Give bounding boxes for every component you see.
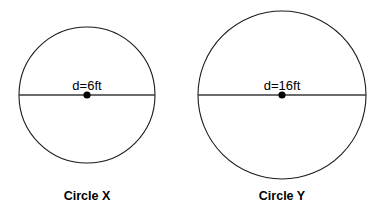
circle-x-diameter-label: d=6ft: [17, 79, 157, 92]
diagram-canvas: d=6ft d=16ft Circle X Circle Y: [0, 0, 374, 207]
circles-figure: d=6ft d=16ft Circle X Circle Y: [0, 0, 374, 207]
circle-x-caption: Circle X: [17, 190, 157, 203]
circle-geometry-layer: [0, 0, 374, 207]
circle-y-caption: Circle Y: [212, 190, 352, 203]
circle-y-diameter-label: d=16ft: [212, 79, 352, 92]
